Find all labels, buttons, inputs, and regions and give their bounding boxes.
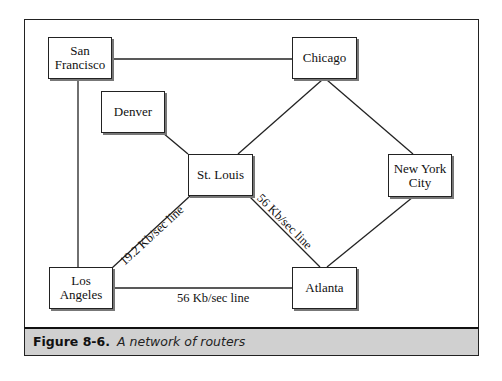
router-label: St. Louis	[197, 168, 244, 182]
router-label: Atlanta	[305, 281, 343, 295]
router-label: San Francisco	[55, 44, 106, 72]
router-san-francisco: San Francisco	[48, 37, 112, 79]
link-nyc-atlanta	[327, 197, 413, 267]
router-atlanta: Atlanta	[292, 267, 357, 309]
link-chicago-nyc	[327, 80, 413, 154]
figure-caption: Figure 8-6. A network of routers	[24, 327, 479, 356]
router-label: Los Angeles	[60, 274, 103, 302]
link-denver-stlouis	[163, 133, 188, 154]
figure-number: Figure 8-6.	[33, 334, 110, 349]
router-chicago: Chicago	[292, 37, 357, 79]
figure-title: A network of routers	[117, 334, 245, 349]
router-los-angeles: Los Angeles	[49, 267, 113, 309]
router-label: New York City	[394, 162, 447, 190]
router-label: Chicago	[303, 51, 346, 65]
link-chicago-stlouis	[238, 80, 322, 154]
router-denver: Denver	[101, 91, 165, 133]
router-new-york-city: New York City	[388, 154, 452, 197]
router-label: Denver	[114, 105, 152, 119]
router-st-louis: St. Louis	[188, 154, 253, 196]
link-label-la-atlanta: 56 Kb/sec line	[177, 291, 249, 306]
